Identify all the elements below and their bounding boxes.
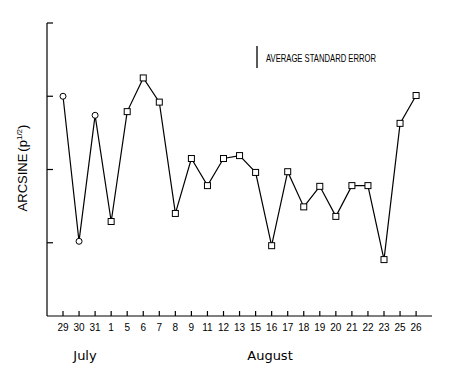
ylabel-sup: 1/2 xyxy=(15,128,24,140)
x-tick-label: 6 xyxy=(140,322,146,333)
month-label: July xyxy=(72,348,97,363)
data-series xyxy=(60,75,419,263)
x-tick-label: 22 xyxy=(362,322,374,333)
series-line xyxy=(63,78,416,260)
x-tick-labels: 2930311567891112131516171819202122232526 xyxy=(57,322,422,333)
x-tick-label: 7 xyxy=(157,322,163,333)
x-tick-label: 31 xyxy=(90,322,102,333)
data-point xyxy=(108,219,114,225)
data-point xyxy=(172,210,178,216)
x-tick-label: 5 xyxy=(124,322,130,333)
ylabel-paren: (p xyxy=(15,140,30,152)
x-tick-label: 11 xyxy=(202,322,213,333)
x-tick-label: 15 xyxy=(250,322,262,333)
x-tick-label: 12 xyxy=(218,322,230,333)
data-point xyxy=(269,243,275,249)
ylabel-main: ARCSINE xyxy=(15,153,30,211)
data-point xyxy=(92,112,98,118)
data-point xyxy=(333,213,339,219)
x-tick-label: 18 xyxy=(298,322,310,333)
data-point xyxy=(221,156,227,162)
data-point xyxy=(156,99,162,105)
x-tick-label: 8 xyxy=(173,322,179,333)
data-point xyxy=(413,93,419,99)
x-tick-label: 17 xyxy=(282,322,294,333)
data-point xyxy=(124,109,130,115)
x-tick-label: 9 xyxy=(189,322,195,333)
x-tick-label: 19 xyxy=(314,322,326,333)
x-tick-label: 30 xyxy=(73,322,85,333)
data-point xyxy=(237,153,243,159)
month-labels: JulyAugust xyxy=(72,348,292,363)
data-point xyxy=(365,183,371,189)
data-point xyxy=(76,238,82,244)
x-tick-label: 23 xyxy=(378,322,390,333)
x-tick-label: 26 xyxy=(411,322,423,333)
data-point xyxy=(285,169,291,175)
x-tick-label: 21 xyxy=(346,322,358,333)
x-tick-label: 25 xyxy=(394,322,406,333)
data-point xyxy=(204,183,210,189)
data-point xyxy=(317,183,323,189)
x-tick-label: 13 xyxy=(234,322,246,333)
ylabel-close: ) xyxy=(15,125,30,129)
data-point xyxy=(381,257,387,263)
legend-label: AVERAGE STANDARD ERROR xyxy=(266,52,376,64)
legend: AVERAGE STANDARD ERROR xyxy=(257,46,376,68)
chart: 2930311567891112131516171819202122232526… xyxy=(0,0,455,385)
x-tick-label: 20 xyxy=(330,322,342,333)
x-tick-label: 1 xyxy=(108,322,114,333)
x-tick-label: 16 xyxy=(266,322,278,333)
data-point xyxy=(188,156,194,162)
axes xyxy=(47,23,432,316)
y-axis-label: ARCSINE(p1/2) xyxy=(15,125,30,212)
x-tick-label: 29 xyxy=(57,322,69,333)
svg-text:ARCSINE(p1/2): ARCSINE(p1/2) xyxy=(15,125,30,212)
month-label: August xyxy=(247,348,293,363)
data-point xyxy=(253,169,259,175)
data-point xyxy=(140,75,146,81)
data-point xyxy=(60,93,66,99)
data-point xyxy=(397,120,403,126)
data-point xyxy=(349,183,355,189)
data-point xyxy=(301,204,307,210)
